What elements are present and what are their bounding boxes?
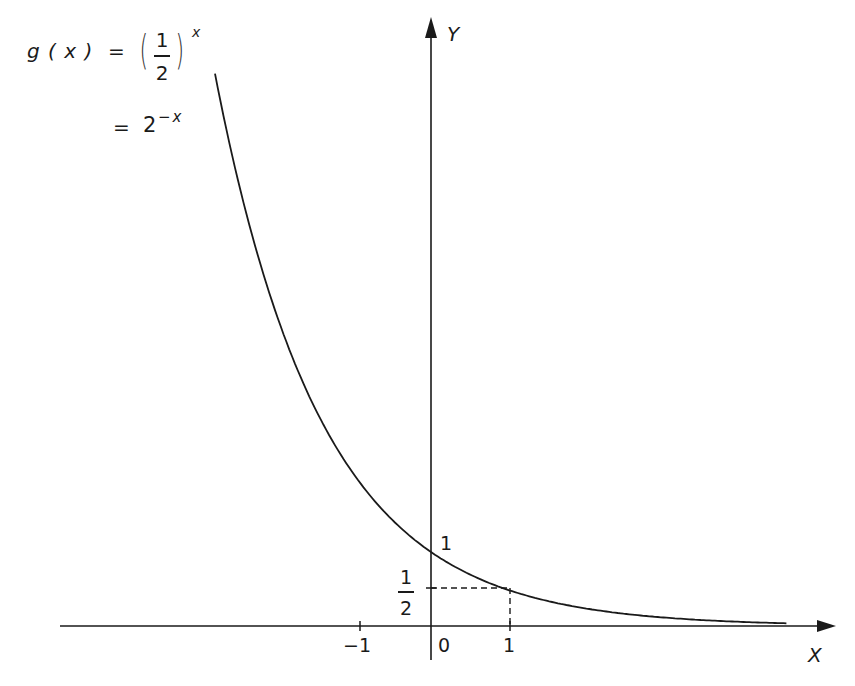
formula-exponent-x: x xyxy=(192,24,200,40)
x-tick-label-0: 0 xyxy=(438,636,450,655)
half-denominator: 2 xyxy=(400,597,412,619)
formula-fraction: 1 2 xyxy=(154,28,170,85)
right-paren: ) xyxy=(176,30,185,70)
x-axis-label: X xyxy=(808,645,822,665)
formula-denominator: 2 xyxy=(156,61,169,85)
formula-numerator: 1 xyxy=(156,28,169,52)
y-intercept-label: 1 xyxy=(440,534,452,553)
function-curve xyxy=(215,74,786,624)
y-axis-label: Y xyxy=(447,24,459,44)
formula-line2-exponent: −x xyxy=(158,108,183,126)
fraction-bar xyxy=(398,591,414,593)
x-axis-arrow-icon xyxy=(817,620,836,632)
half-numerator: 1 xyxy=(400,566,412,588)
y-axis-arrow-icon xyxy=(425,17,437,38)
x-tick-label-1: 1 xyxy=(503,636,515,655)
y-tick-label-half: 1 2 xyxy=(398,566,414,619)
formula-line2-base: 2 xyxy=(143,113,156,137)
formula-lhs: g ( x ) = xyxy=(27,39,126,63)
x-tick-label-neg1: −1 xyxy=(343,636,371,655)
left-paren: ( xyxy=(140,30,149,70)
function-plot xyxy=(0,0,855,686)
formula-fraction-bar xyxy=(154,55,170,57)
formula-line2-eq: = xyxy=(113,115,130,139)
